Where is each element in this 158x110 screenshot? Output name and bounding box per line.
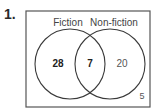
fiction-only-count: 28 (52, 58, 64, 69)
venn-diagram: Fiction Non-fiction 28 7 20 5 (0, 0, 158, 110)
fiction-label: Fiction (53, 17, 82, 28)
non-fiction-label: Non-fiction (90, 17, 138, 28)
fiction-circle (35, 29, 105, 99)
non-fiction-only-count: 20 (116, 58, 128, 69)
intersection-count: 7 (87, 58, 93, 69)
outside-count: 5 (139, 91, 144, 101)
non-fiction-circle (75, 29, 145, 99)
